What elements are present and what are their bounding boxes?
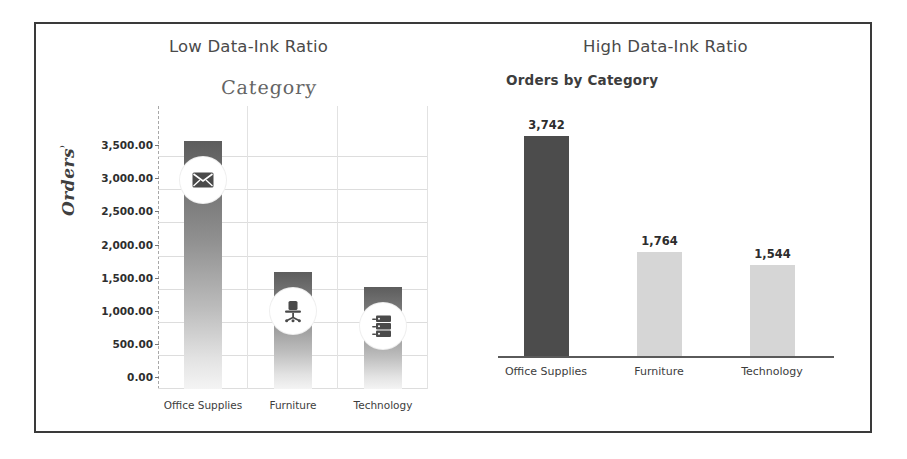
bar-value-label: 1,544 bbox=[754, 247, 790, 261]
bar-value-label: 3,742 bbox=[528, 118, 564, 132]
envelope-icon bbox=[192, 172, 214, 188]
y-tick-label: 1,500.00 bbox=[101, 272, 153, 284]
y-tick-label: 3,500.00 bbox=[101, 139, 153, 151]
vertical-gridline bbox=[247, 106, 248, 389]
x-axis-baseline bbox=[498, 356, 834, 358]
x-tick-label-furniture: Furniture bbox=[269, 399, 316, 411]
y-tick-label: 2,500.00 bbox=[101, 205, 153, 217]
y-axis-title-suffix: ⁾ bbox=[59, 145, 69, 148]
y-tick-label: 2,000.00 bbox=[101, 239, 153, 251]
bar-fill bbox=[637, 252, 682, 356]
panel-high-data-ink: High Data-Ink Ratio Orders by Category 3… bbox=[461, 24, 870, 431]
server-stack-icon bbox=[372, 314, 394, 338]
x-tick-label-office-supplies: Office Supplies bbox=[164, 399, 242, 411]
figure-canvas: Low Data-Ink Ratio Category Orders⁾ bbox=[0, 0, 907, 459]
panel-low-title: Low Data-Ink Ratio bbox=[36, 37, 461, 56]
y-tick-label: 500.00 bbox=[112, 338, 153, 350]
y-tick-label: 3,000.00 bbox=[101, 172, 153, 184]
y-axis-title: Orders⁾ bbox=[58, 145, 78, 216]
x-tick-label-technology: Technology bbox=[741, 365, 803, 378]
y-axis-title-text: Orders bbox=[58, 148, 78, 216]
y-axis-line bbox=[158, 106, 159, 389]
panel-low-data-ink: Low Data-Ink Ratio Category Orders⁾ bbox=[36, 24, 461, 431]
bar-fill bbox=[750, 265, 795, 356]
high-chart-title: Orders by Category bbox=[506, 72, 658, 88]
bar-value-label: 1,764 bbox=[641, 234, 677, 248]
y-tick-label: 1,000.00 bbox=[101, 305, 153, 317]
bar-office-supplies[interactable]: 3,742 bbox=[524, 136, 569, 356]
badge-technology bbox=[360, 303, 406, 349]
figure-frame: Low Data-Ink Ratio Category Orders⁾ bbox=[34, 22, 872, 433]
badge-furniture bbox=[270, 288, 316, 334]
y-tick-label: 0.00 bbox=[127, 371, 153, 383]
high-plot-area: 3,742 1,764 1,544 Office Supplies Furnit… bbox=[506, 136, 826, 358]
bar-furniture[interactable]: 1,764 bbox=[637, 252, 682, 356]
x-tick-label-technology: Technology bbox=[354, 399, 413, 411]
badge-office-supplies bbox=[180, 157, 226, 203]
x-tick-label-furniture: Furniture bbox=[634, 365, 683, 378]
vertical-gridline bbox=[337, 106, 338, 389]
bar-technology[interactable]: 1,544 bbox=[750, 265, 795, 356]
office-chair-icon bbox=[281, 299, 305, 323]
low-plot-area: 3,500.00 3,000.00 2,500.00 2,000.00 1,50… bbox=[158, 124, 428, 389]
bar-fill bbox=[524, 136, 569, 356]
x-tick-label-office-supplies: Office Supplies bbox=[505, 365, 587, 378]
panel-high-title: High Data-Ink Ratio bbox=[461, 37, 870, 56]
vertical-gridline bbox=[427, 106, 428, 389]
low-chart-title: Category bbox=[220, 76, 317, 98]
